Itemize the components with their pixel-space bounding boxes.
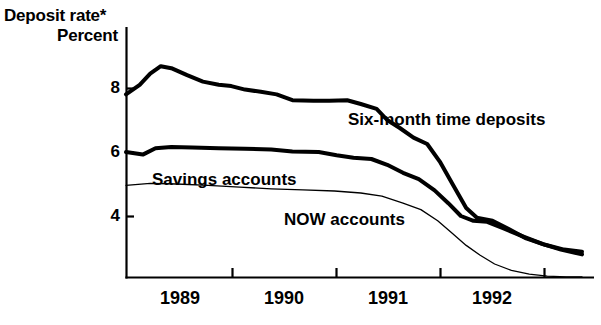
axis-lines xyxy=(125,27,594,279)
plot-area xyxy=(0,0,601,325)
deposit-rate-chart: Deposit rate* Percent 8 6 4 1989 1990 19… xyxy=(0,0,601,325)
x-axis-ticks xyxy=(233,268,545,277)
line-savings-accounts xyxy=(126,147,582,255)
data-series-lines xyxy=(126,66,582,277)
